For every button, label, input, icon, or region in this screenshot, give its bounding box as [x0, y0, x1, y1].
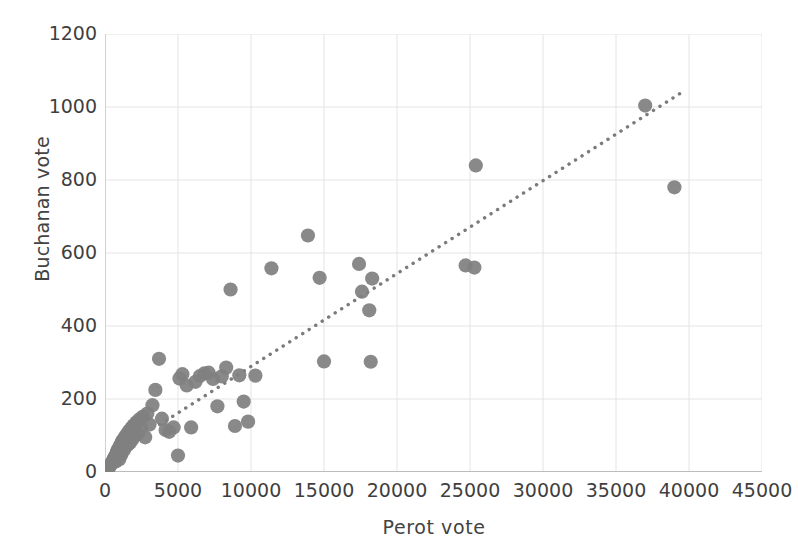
- y-tick-label: 1200: [11, 24, 97, 43]
- data-point: [237, 394, 251, 408]
- data-point: [232, 368, 246, 382]
- data-point: [365, 271, 379, 285]
- data-point: [467, 261, 481, 275]
- x-tick-label: 30000: [513, 481, 573, 500]
- data-point: [355, 285, 369, 299]
- y-tick-label: 0: [11, 462, 97, 481]
- x-tick-label: 35000: [586, 481, 646, 500]
- data-point: [362, 303, 376, 317]
- x-tick-label: 0: [99, 481, 111, 500]
- data-point: [241, 415, 255, 429]
- data-point: [138, 430, 152, 444]
- data-point: [210, 399, 224, 413]
- x-tick-label: 20000: [367, 481, 427, 500]
- gridlines: [105, 34, 762, 472]
- data-points: [105, 98, 682, 472]
- y-tick-label: 800: [11, 170, 97, 189]
- scatter-chart: Buchanan vote 020040060080010001200 0500…: [0, 0, 798, 558]
- data-point: [667, 180, 681, 194]
- data-point: [317, 354, 331, 368]
- data-point: [184, 420, 198, 434]
- data-point: [145, 398, 159, 412]
- data-point: [171, 448, 185, 462]
- plot-area: [105, 34, 762, 472]
- x-axis-tick-labels: 0500010000150002000025000300003500040000…: [0, 481, 798, 511]
- data-point: [142, 417, 156, 431]
- data-point: [167, 420, 181, 434]
- data-point: [152, 352, 166, 366]
- y-tick-label: 400: [11, 316, 97, 335]
- x-tick-label: 40000: [659, 481, 719, 500]
- data-point: [248, 369, 262, 383]
- data-point: [469, 158, 483, 172]
- data-point: [264, 261, 278, 275]
- y-tick-label: 600: [11, 243, 97, 262]
- data-point: [364, 355, 378, 369]
- data-point: [638, 98, 652, 112]
- data-point: [313, 271, 327, 285]
- x-tick-label: 45000: [732, 481, 792, 500]
- data-point: [301, 228, 315, 242]
- data-point: [148, 383, 162, 397]
- y-tick-label: 1000: [11, 97, 97, 116]
- x-tick-label: 15000: [294, 481, 354, 500]
- x-tick-label: 10000: [221, 481, 281, 500]
- plot-svg: [105, 34, 762, 472]
- y-tick-label: 200: [11, 389, 97, 408]
- data-point: [219, 361, 233, 375]
- x-axis-title: Perot vote: [105, 516, 763, 538]
- x-tick-label: 25000: [440, 481, 500, 500]
- x-tick-label: 5000: [154, 481, 202, 500]
- data-point: [223, 282, 237, 296]
- data-point: [228, 419, 242, 433]
- data-point: [352, 257, 366, 271]
- y-axis-tick-labels: 020040060080010001200: [0, 0, 97, 558]
